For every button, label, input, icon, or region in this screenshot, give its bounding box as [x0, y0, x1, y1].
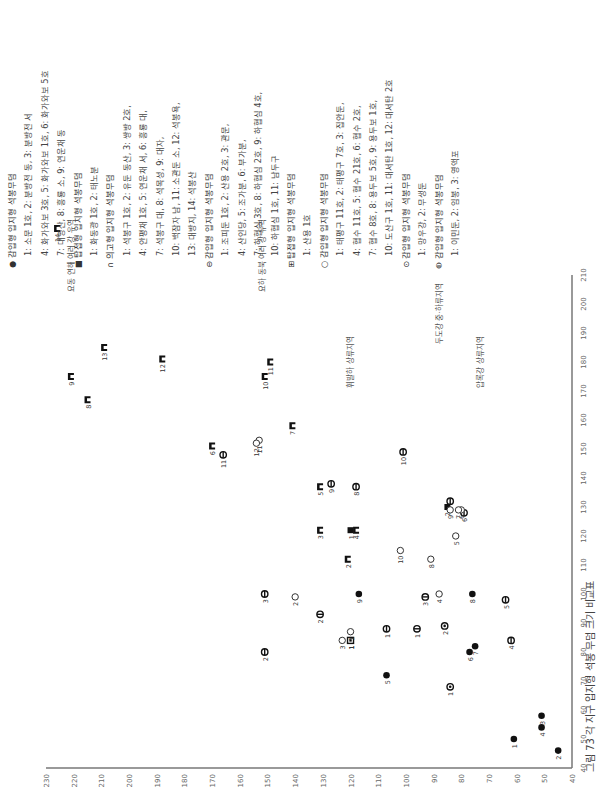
data-point: 3 — [422, 594, 430, 606]
y-tick-label: 230 — [43, 774, 51, 787]
data-point: 8 — [85, 396, 93, 409]
point-label: 3 — [262, 599, 270, 603]
n-block-icon — [209, 443, 215, 450]
data-point: 1 — [347, 629, 355, 641]
legend-item: 4: 안평채 1호, 5: 연운채 서, 6: 흥룡 대, — [135, 8, 151, 268]
x-tick-label: 180 — [580, 355, 588, 368]
y-tick-label: 200 — [126, 774, 134, 787]
n-block-icon — [85, 396, 91, 403]
open-circle-icon — [455, 507, 461, 513]
open-circle-icon — [436, 591, 442, 597]
legend-heading: ⊖ 감입형 입지형 석봉무덤 — [201, 8, 217, 268]
point-label: 9 — [447, 515, 455, 519]
x-tick-label: 140 — [580, 471, 588, 484]
point-label: 11 — [267, 367, 275, 375]
data-point: 7 — [472, 643, 480, 655]
legend-heading: ∩ 의고형 입지형 석봉무덤 — [102, 8, 118, 268]
n-block-icon: ∩ — [105, 259, 115, 268]
legend-item: 1: 산용 1호 — [299, 8, 315, 268]
data-point: 2 — [292, 594, 300, 606]
data-point: 11 — [220, 452, 228, 468]
data-point: 9 — [328, 481, 336, 493]
open-circle-icon — [292, 594, 298, 600]
point-label: 1 — [414, 634, 422, 638]
y-tick-label: 180 — [181, 774, 189, 787]
filled-circle-icon — [555, 747, 562, 754]
y-tick-label: 210 — [98, 774, 106, 787]
n-block-icon — [317, 527, 323, 534]
data-point: 10 — [262, 373, 270, 390]
data-point: 1 — [414, 626, 422, 638]
data-point: 11 — [267, 359, 275, 376]
filled-circle-icon — [469, 591, 476, 598]
point-label: 9 — [328, 489, 336, 493]
n-block-icon — [101, 344, 107, 351]
y-tick-label: 150 — [264, 774, 272, 787]
data-point: 2 — [441, 623, 449, 635]
point-label: 5 — [384, 680, 392, 684]
filled-circle-icon — [538, 713, 545, 720]
point-label: 7 — [472, 651, 480, 655]
legend-item: 7: 석봉구 대, 8: 석목성, 9: 대자, — [152, 8, 168, 268]
n-block-icon — [159, 356, 165, 363]
y-tick-label: 50 — [541, 774, 549, 783]
circle-bar-icon: ⊖ — [204, 259, 214, 268]
data-point: 1 — [383, 626, 391, 638]
point-label: 10 — [262, 382, 270, 390]
point-label: 2 — [292, 602, 300, 606]
point-label: 1 — [348, 645, 356, 649]
y-tick-label: 170 — [209, 774, 217, 787]
x-tick-label: 120 — [580, 529, 588, 542]
point-label: 12 — [253, 448, 261, 456]
x-tick-label: 130 — [580, 500, 588, 513]
legend-heading: ⦶ 감입형 입지형 석봉무덤 — [431, 8, 447, 268]
legend-item: 4: 화가와보 3호, 5: 화가와보 1호, 6: 화가와보 5호 — [37, 8, 53, 268]
point-label: 13 — [101, 353, 109, 361]
legend: ● 감입형 입지형 석봉무덤1: 소문 1호, 2: 분방전 동, 3: 분방전… — [4, 8, 463, 268]
data-point: 2 — [317, 611, 325, 623]
data-point: 9 — [356, 591, 364, 603]
filled-circle-icon — [356, 591, 363, 598]
point-label: 4 — [539, 732, 547, 736]
filled-circle-icon: ● — [7, 258, 17, 268]
region-label: 휘발하 상류지역 — [345, 336, 355, 387]
filled-circle-icon — [472, 643, 479, 650]
legend-heading: ⊞ 탑접형 입지형 석봉무덤 — [283, 8, 299, 268]
point-label: 3 — [422, 602, 430, 606]
x-tick-label: 110 — [580, 558, 588, 571]
open-circle-icon — [347, 629, 353, 635]
open-circle-icon — [447, 507, 453, 513]
data-point: 5 — [383, 672, 391, 684]
x-tick-label: 160 — [580, 413, 588, 426]
point-label: 7 — [289, 431, 297, 435]
y-tick-label: 140 — [292, 774, 300, 787]
legend-item: 1: 조피둔 1호, 2: 산용 2호, 3: 관문, — [217, 8, 233, 268]
y-tick-label: 120 — [348, 774, 356, 787]
data-point: 1 — [511, 736, 519, 748]
x-tick-label: 190 — [580, 326, 588, 339]
point-label: 5 — [503, 605, 511, 609]
legend-item: 1: 이민둔, 2: 임봉, 3: 영액포 — [447, 8, 463, 268]
legend-heading: ○ 감입형 입지형 석봉무덤 — [316, 8, 332, 268]
data-point: 4 — [353, 527, 361, 540]
y-tick-label: 80 — [458, 774, 466, 783]
data-point: 5 — [453, 533, 461, 545]
point-label: 9 — [68, 382, 76, 386]
data-point: 12 — [159, 356, 167, 373]
y-tick-label: 110 — [375, 774, 383, 787]
data-point: 3 — [339, 637, 347, 649]
filled-circle-icon — [511, 736, 518, 743]
legend-item: 1: 화동광 1호, 2: 태노분 — [86, 8, 102, 268]
point-label: 4 — [436, 599, 444, 603]
point-label: 8 — [85, 405, 93, 409]
data-point: 6 — [209, 443, 217, 456]
point-label: 12 — [159, 364, 167, 372]
x-tick-label: 210 — [580, 268, 588, 281]
legend-item: 7: 하협심 3호, 8: 하협심 2호, 9: 하협심 4호, — [250, 8, 266, 268]
legend-item: 10: 백잠자 남, 11: 소관둔 소, 12: 석봉욕, — [168, 8, 184, 268]
data-point: 5 — [502, 597, 510, 609]
point-label: 5 — [453, 541, 461, 545]
legend-item: 1: 소문 1호, 2: 분방전 동, 3: 분방전 서 — [20, 8, 36, 268]
point-label: 3 — [339, 645, 347, 649]
data-point: 4 — [538, 724, 546, 736]
